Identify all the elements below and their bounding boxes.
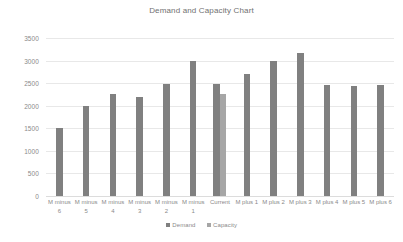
- legend-label: Capacity: [213, 222, 237, 228]
- bars-layer: [46, 38, 394, 196]
- bar-demand[interactable]: [56, 128, 63, 196]
- x-axis-tick-label: M plus 4: [314, 198, 341, 207]
- bar-demand[interactable]: [270, 61, 277, 196]
- x-axis-tick-label: M plus 3: [287, 198, 314, 207]
- bar-group: [73, 38, 100, 196]
- bar-group: [233, 38, 260, 196]
- bar-demand[interactable]: [136, 97, 143, 196]
- bar-group: [100, 38, 127, 196]
- chart-container: Demand and Capacity Chart 05001000150020…: [0, 0, 403, 242]
- y-axis-tick-label: 0: [35, 193, 39, 200]
- bar-group: [153, 38, 180, 196]
- x-axis-tick-label: M plus 2: [260, 198, 287, 207]
- gridline-0: [46, 196, 394, 197]
- x-axis-tick-label: M plus 5: [340, 198, 367, 207]
- x-axis-tick-label: Current: [207, 198, 234, 207]
- bar-demand[interactable]: [377, 85, 384, 197]
- x-axis: M minus6M minus5M minus4M minus3M minus2…: [46, 198, 394, 224]
- x-axis-tick-label: M plus 1: [233, 198, 260, 207]
- bar-group: [126, 38, 153, 196]
- bar-demand[interactable]: [110, 94, 117, 196]
- legend-swatch-icon: [166, 223, 170, 227]
- bar-demand[interactable]: [163, 84, 170, 196]
- y-axis-tick-label: 1500: [24, 125, 39, 132]
- legend-item-capacity[interactable]: Capacity: [207, 222, 238, 228]
- bar-group: [207, 38, 234, 196]
- bar-demand[interactable]: [244, 74, 251, 196]
- bar-demand[interactable]: [83, 106, 90, 196]
- y-axis-tick-label: 500: [28, 170, 39, 177]
- y-axis: 0500100015002000250030003500: [0, 38, 44, 196]
- bar-group: [260, 38, 287, 196]
- bar-group: [46, 38, 73, 196]
- bar-demand[interactable]: [190, 61, 197, 196]
- bar-capacity[interactable]: [220, 94, 227, 196]
- legend-item-demand[interactable]: Demand: [166, 222, 196, 228]
- bar-group: [367, 38, 394, 196]
- x-axis-tick-label: M minus5: [73, 198, 100, 216]
- x-axis-tick-label: M minus4: [100, 198, 127, 216]
- chart-title: Demand and Capacity Chart: [0, 6, 403, 15]
- bar-group: [340, 38, 367, 196]
- y-axis-tick-label: 3500: [24, 35, 39, 42]
- legend-swatch-icon: [207, 223, 211, 227]
- bar-demand[interactable]: [297, 53, 304, 196]
- bar-group: [180, 38, 207, 196]
- y-axis-tick-label: 2000: [24, 102, 39, 109]
- x-axis-tick-label: M minus1: [180, 198, 207, 216]
- y-axis-tick-label: 1000: [24, 147, 39, 154]
- bar-demand[interactable]: [324, 85, 331, 197]
- bar-group: [314, 38, 341, 196]
- y-axis-tick-label: 3000: [24, 57, 39, 64]
- legend-label: Demand: [172, 222, 195, 228]
- x-axis-tick-label: M minus3: [126, 198, 153, 216]
- y-axis-tick-label: 2500: [24, 80, 39, 87]
- x-axis-tick-label: M minus6: [46, 198, 73, 216]
- x-axis-tick-label: M plus 6: [367, 198, 394, 207]
- bar-group: [287, 38, 314, 196]
- bar-demand[interactable]: [351, 86, 358, 196]
- chart-legend: DemandCapacity: [0, 222, 403, 228]
- x-axis-tick-label: M minus2: [153, 198, 180, 216]
